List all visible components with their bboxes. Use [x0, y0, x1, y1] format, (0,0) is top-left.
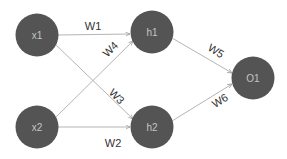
node-x1: x1 — [16, 14, 59, 57]
edge-label-w5: W5 — [206, 41, 226, 60]
node-label-o1: O1 — [246, 73, 260, 84]
edge-label-w1: W1 — [85, 20, 102, 32]
edge-h1-o1 — [172, 38, 232, 73]
edge-label-w6: W6 — [210, 91, 230, 110]
edge-x1-h2 — [55, 44, 133, 119]
node-label-x2: x2 — [32, 122, 43, 133]
node-h2: h2 — [131, 106, 174, 149]
neural-network-diagram: W1 W2 W3 W4 W5 W6 x1 x2 h1 h2 O1 — [0, 0, 287, 159]
edge-x2-h1 — [55, 41, 133, 118]
node-o1: O1 — [232, 57, 275, 100]
node-h1: h1 — [131, 11, 174, 54]
edge-label-w2: W2 — [105, 137, 122, 149]
node-label-h1: h1 — [146, 27, 158, 38]
node-x2: x2 — [16, 106, 59, 149]
node-label-h2: h2 — [146, 122, 158, 133]
edge-label-w3: W3 — [107, 86, 127, 106]
edge-x1-h1 — [58, 34, 130, 35]
node-label-x1: x1 — [32, 30, 43, 41]
